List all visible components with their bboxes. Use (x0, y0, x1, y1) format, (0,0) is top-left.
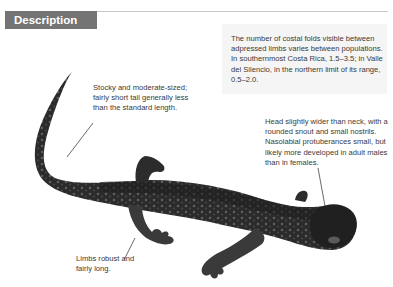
leader-line-head (318, 168, 325, 206)
salamander-silhouette (35, 72, 357, 279)
callout-limbs: Limbs robust and fairly long. (76, 254, 146, 274)
callout-body-size: Stocky and moderate-sized; fairly short … (93, 83, 193, 114)
leader-line-body (67, 123, 93, 157)
callout-head-shape: Head slightly wider than neck, with a ro… (265, 117, 393, 168)
